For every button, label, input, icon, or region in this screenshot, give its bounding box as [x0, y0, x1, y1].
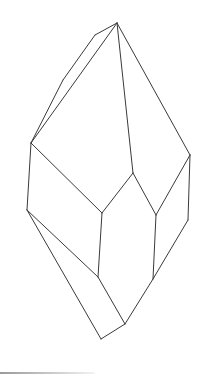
edge-inner_right_low-bottom_mid — [125, 279, 153, 324]
edge-center_top-inner_right — [133, 173, 156, 215]
edge-inner_right-inner_right_low — [153, 215, 156, 279]
edge-center_top-inner_left — [102, 173, 133, 213]
edge-ul2-left — [31, 80, 63, 143]
crystal-diagram — [0, 0, 206, 375]
edge-right_low-inner_right_low — [153, 220, 188, 279]
edge-apex-left — [31, 23, 117, 143]
edge-right-right_low — [188, 155, 190, 220]
edge-left_low-bottom — [27, 210, 101, 339]
edge-apex-center_top — [117, 23, 133, 173]
bottom-divider — [0, 372, 95, 374]
edge-apex-ul1 — [95, 23, 117, 35]
edge-left-inner_left — [31, 143, 102, 213]
edge-ul1-ul2 — [63, 35, 95, 80]
edge-bottom_mid-bottom — [101, 324, 125, 339]
edge-inner_left-inner_left_low — [98, 213, 102, 277]
edge-right-inner_right — [156, 155, 190, 215]
edge-left_low-inner_left_low — [27, 210, 98, 277]
edge-apex-right — [117, 23, 190, 155]
edge-left-left_low — [27, 143, 31, 210]
edge-inner_left_low-bottom_mid — [98, 277, 125, 324]
